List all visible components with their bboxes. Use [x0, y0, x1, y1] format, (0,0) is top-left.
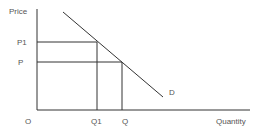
p1-label: P1	[17, 38, 27, 47]
q-label: Q	[122, 117, 128, 126]
q1-label: Q1	[91, 117, 102, 126]
y-axis-label: Price	[9, 7, 28, 16]
origin-label: O	[25, 117, 31, 126]
demand-label: D	[169, 88, 175, 97]
demand-curve	[63, 12, 163, 97]
p-label: P	[18, 58, 23, 67]
demand-diagram: Price P1 P O Q1 Q D Quantity	[0, 0, 263, 135]
x-axis-label: Quantity	[216, 117, 246, 126]
